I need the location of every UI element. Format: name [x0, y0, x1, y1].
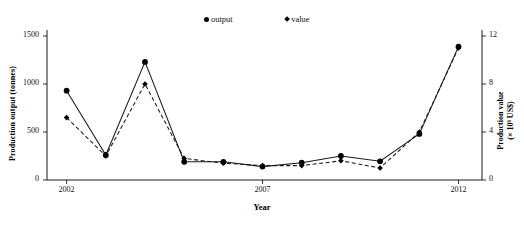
data-point-value — [338, 158, 344, 164]
chart-figure: output value Production output (tonnes) … — [0, 0, 524, 229]
plot-area — [0, 0, 524, 229]
series-line-output — [67, 47, 459, 167]
data-point-output — [64, 88, 70, 94]
data-point-output — [142, 59, 148, 65]
data-point-value — [377, 165, 383, 171]
data-point-output — [377, 158, 383, 164]
data-point-value — [142, 81, 148, 87]
